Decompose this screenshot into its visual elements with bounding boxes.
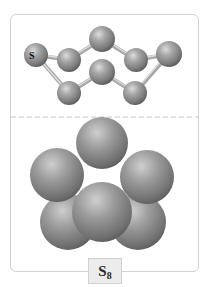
sulfur-sphere	[30, 148, 84, 202]
sulfur-atom	[123, 81, 147, 105]
sulfur-atom	[156, 41, 182, 67]
formula-label: S8	[88, 258, 122, 284]
space-filling-model	[30, 117, 174, 250]
sulfur-sphere-front	[72, 182, 132, 242]
sulfur-atom	[57, 81, 81, 105]
sulfur-sphere	[120, 150, 174, 204]
sulfur-atom	[57, 48, 81, 72]
atom-label-s: S	[29, 50, 35, 61]
sulfur-atom	[124, 48, 148, 72]
sulfur-atom	[89, 26, 115, 52]
formula-subscript: 8	[107, 270, 112, 281]
sulfur-atom	[89, 59, 115, 85]
sulfur-atom-labeled	[24, 43, 48, 67]
s8-molecule-diagram: S	[0, 0, 211, 287]
formula-element: S	[98, 263, 106, 280]
sulfur-sphere	[76, 117, 128, 169]
